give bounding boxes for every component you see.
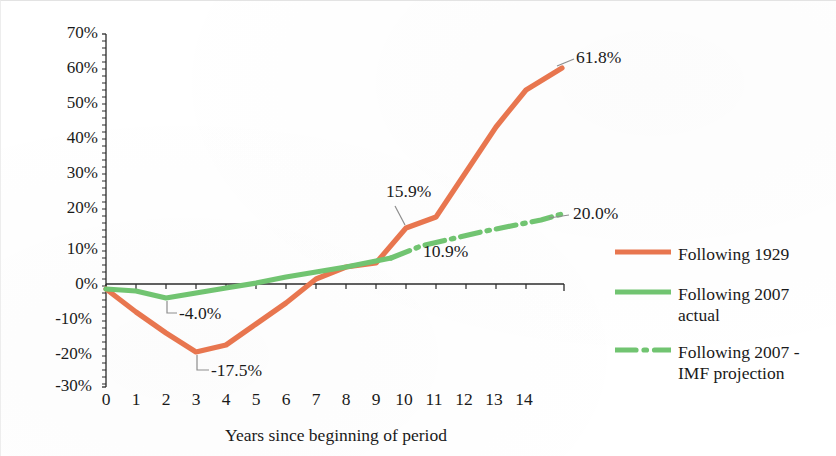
leader-15.9 — [395, 206, 405, 225]
x-tick-label: 7 — [303, 389, 329, 409]
annotation-10.9: 10.9% — [423, 241, 468, 261]
x-tick-label: 12 — [451, 389, 477, 409]
legend-line-solid-icon — [615, 287, 671, 307]
y-tick-label: 40% — [34, 129, 98, 147]
annotation--4.0: -4.0% — [179, 303, 221, 323]
x-tick-label: 2 — [153, 389, 179, 409]
x-tick-label: 4 — [213, 389, 239, 409]
y-tick-label: 20% — [34, 199, 98, 217]
leader--17.5 — [197, 355, 209, 370]
y-tick-label: 30% — [34, 164, 98, 182]
annotation--17.5: -17.5% — [211, 360, 262, 380]
x-tick-label: 10 — [391, 389, 417, 409]
y-tick-label: 70% — [34, 24, 98, 42]
y-tick-label: 0% — [34, 275, 98, 293]
x-tick-label: 14 — [511, 389, 537, 409]
series-following-2007-actual — [106, 258, 391, 298]
legend-label: Following 2007 - IMF projection — [678, 342, 800, 383]
y-axis — [102, 34, 106, 387]
series-following-2007-imf-projection — [391, 214, 562, 258]
legend: Following 1929 Following 2007 actual Fol… — [615, 244, 833, 400]
x-axis-ticks — [136, 284, 526, 289]
x-tick-label: 3 — [183, 389, 209, 409]
legend-item-following-1929[interactable]: Following 1929 — [615, 244, 833, 267]
x-axis — [106, 284, 564, 291]
chart-figure: 70% 60% 50% 40% 30% 20% 10% 0% -10% -20%… — [0, 0, 836, 456]
x-axis-title: Years since beginning of period — [106, 425, 566, 446]
y-tick-label: 50% — [34, 94, 98, 112]
x-tick-label: 1 — [123, 389, 149, 409]
annotation-20.0: 20.0% — [573, 203, 618, 223]
legend-item-following-2007-actual[interactable]: Following 2007 actual — [615, 284, 833, 325]
legend-line-dash-dot-icon — [615, 345, 671, 365]
x-tick-label: 8 — [333, 389, 359, 409]
y-tick-label: -10% — [28, 310, 92, 328]
y-tick-label: 60% — [34, 59, 98, 77]
series-following-1929 — [106, 68, 562, 352]
x-tick-label: 6 — [273, 389, 299, 409]
legend-label: Following 1929 — [678, 244, 789, 265]
legend-line-solid-icon — [615, 247, 671, 267]
legend-label: Following 2007 actual — [678, 284, 789, 325]
x-tick-label: 5 — [243, 389, 269, 409]
x-tick-label: 9 — [363, 389, 389, 409]
leader-61.8 — [557, 59, 574, 66]
x-tick-label: 0 — [93, 389, 119, 409]
y-tick-label: -20% — [28, 345, 92, 363]
annotation-61.8: 61.8% — [576, 47, 621, 67]
x-tick-label: 11 — [421, 389, 447, 409]
leader--4.0 — [167, 301, 177, 313]
x-tick-label: 13 — [481, 389, 507, 409]
y-tick-label: 10% — [34, 240, 98, 258]
legend-item-following-2007-imf-projection[interactable]: Following 2007 - IMF projection — [615, 342, 833, 383]
y-tick-label: -30% — [28, 377, 92, 395]
annotation-15.9: 15.9% — [386, 181, 431, 201]
